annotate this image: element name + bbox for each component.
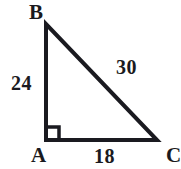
- side-label-vertical-leg: 24: [11, 73, 32, 93]
- vertex-label-b: B: [29, 2, 43, 23]
- right-triangle-figure: B A C 24 30 18: [0, 0, 181, 169]
- side-label-horizontal-leg: 18: [94, 146, 115, 166]
- vertex-label-c: C: [166, 145, 181, 166]
- triangle-outline: [46, 24, 157, 140]
- vertex-label-a: A: [31, 145, 46, 166]
- side-label-hypotenuse: 30: [116, 57, 137, 77]
